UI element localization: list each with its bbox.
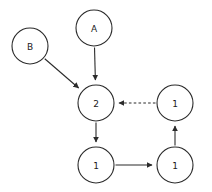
graph-node-BL[interactable]: 1 (78, 147, 114, 183)
graph-svg: BA2111 (0, 0, 212, 192)
graph-node-TR[interactable]: 1 (157, 85, 193, 121)
graph-node-BR[interactable]: 1 (157, 147, 193, 183)
node-label-B: B (27, 42, 33, 52)
graph-node-A[interactable]: A (76, 10, 112, 46)
graph-node-B[interactable]: B (12, 28, 48, 64)
node-label-BL: 1 (93, 161, 99, 171)
node-layer: BA2111 (12, 10, 193, 183)
edge-A-to-2 (95, 47, 96, 80)
node-label-TR: 1 (172, 99, 178, 109)
node-label-BR: 1 (172, 161, 178, 171)
graph-node-C2[interactable]: 2 (78, 85, 114, 121)
node-label-C2: 2 (93, 99, 99, 109)
node-label-A: A (91, 24, 98, 34)
diagram-canvas: BA2111 (0, 0, 212, 192)
edge-B-to-2 (45, 59, 79, 88)
